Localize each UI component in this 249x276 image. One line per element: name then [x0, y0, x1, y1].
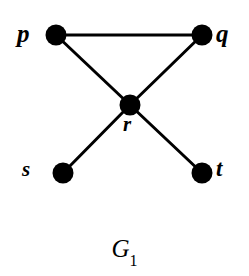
node-label-q: q	[216, 21, 229, 46]
figure-caption-base: G	[111, 235, 129, 262]
figure-caption: G1	[0, 236, 249, 266]
node-p	[46, 25, 67, 46]
node-label-s: s	[22, 159, 30, 180]
node-label-r: r	[123, 114, 131, 135]
figure-caption-subscript: 1	[130, 252, 138, 269]
edge-r-t	[130, 105, 202, 173]
node-s	[53, 163, 74, 184]
node-t	[192, 163, 213, 184]
edge-p-r	[56, 35, 130, 105]
node-label-t: t	[216, 157, 222, 180]
graph-figure: p q r s t G1	[0, 0, 249, 276]
node-q	[192, 25, 213, 46]
edge-q-r	[130, 35, 202, 105]
node-label-p: p	[17, 21, 30, 46]
edge-r-s	[63, 105, 130, 173]
